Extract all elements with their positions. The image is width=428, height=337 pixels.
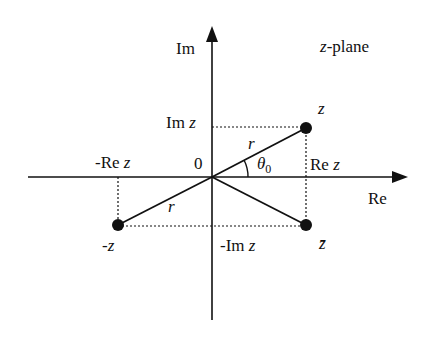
re-z-label: Re z <box>310 156 340 173</box>
point-conj-z <box>300 219 312 231</box>
origin-label: 0 <box>194 155 203 172</box>
real-axis-arrow-icon <box>392 171 408 183</box>
point-neg-z-label: -z <box>102 237 114 254</box>
point-z-label: z <box>318 100 325 117</box>
radius-conj-z <box>212 177 306 225</box>
real-axis-label: Re <box>368 190 387 207</box>
imag-axis-arrow-icon <box>206 26 218 42</box>
im-z-label: Im z <box>166 114 196 131</box>
angle-arc <box>244 160 248 177</box>
imag-axis-label: Im <box>176 40 195 57</box>
plane-title: z-plane <box>320 38 369 55</box>
neg-re-z-label: -Re z <box>95 154 130 171</box>
neg-im-z-label: -Im z <box>220 237 255 254</box>
r-lower-label: r <box>168 198 175 215</box>
point-conj-z-label: z̄ <box>319 235 326 252</box>
radius-neg-z <box>118 177 212 225</box>
point-z <box>300 122 312 134</box>
r-upper-label: r <box>248 135 255 152</box>
angle-label: θ0 <box>257 155 271 175</box>
point-neg-z <box>112 219 124 231</box>
